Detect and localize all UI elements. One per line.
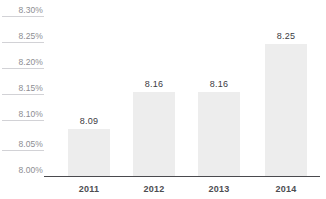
- bar-value-2011: 8.09: [68, 116, 110, 126]
- bar-2012[interactable]: [133, 92, 175, 177]
- plot-area: 8.09 8.16 8.16 8.25 2011 2012 2013 2014: [44, 0, 326, 199]
- bar-2011[interactable]: [68, 129, 110, 177]
- y-axis-tick-rule: [2, 120, 44, 121]
- y-axis-tick-label: 8.15%: [18, 83, 43, 93]
- y-axis-tick-label: 8.20%: [18, 57, 43, 67]
- y-axis-tick-label: 8.30%: [18, 5, 43, 15]
- y-axis-tick-label: 8.00%: [18, 165, 43, 175]
- y-axis-tick-rule: [2, 16, 44, 17]
- y-axis-tick-label: 8.25%: [18, 31, 43, 41]
- y-axis-tick-label: 8.05%: [18, 139, 43, 149]
- x-axis-tick-label-2012: 2012: [133, 184, 175, 194]
- bar-value-2013: 8.16: [198, 79, 240, 89]
- x-axis-tick-label-2011: 2011: [68, 184, 110, 194]
- x-axis-tick-label-2014: 2014: [265, 184, 307, 194]
- y-axis-tick-label: 8.10%: [18, 109, 43, 119]
- bar-value-2012: 8.16: [133, 79, 175, 89]
- bar-2013[interactable]: [198, 92, 240, 177]
- y-axis: 8.30% 8.25% 8.20% 8.15% 8.10% 8.05% 8.00…: [0, 0, 44, 199]
- y-axis-tick-rule: [2, 94, 44, 95]
- bar-chart: 8.30% 8.25% 8.20% 8.15% 8.10% 8.05% 8.00…: [0, 0, 326, 199]
- bar-2014[interactable]: [265, 44, 307, 177]
- x-axis-tick-label-2013: 2013: [198, 184, 240, 194]
- y-axis-tick-rule: [2, 68, 44, 69]
- y-axis-tick-rule: [2, 150, 44, 151]
- y-axis-tick-rule: [2, 42, 44, 43]
- bar-value-2014: 8.25: [265, 31, 307, 41]
- x-axis-line: [44, 176, 320, 178]
